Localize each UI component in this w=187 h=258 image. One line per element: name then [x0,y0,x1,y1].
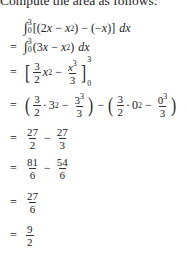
equation-line-6: = 816 − 546 [10,153,71,183]
minus: − [55,21,62,36]
right-paren: ) [171,94,176,116]
denominator: 6 [29,202,37,215]
fraction: 32 [33,93,41,118]
numerator: 03 [157,91,169,106]
numerator: 9 [26,223,34,235]
term: )] [107,21,115,36]
integral-limits: 3 0 [28,19,32,35]
denominator: 2 [33,72,41,85]
numerator: x3 [67,58,78,73]
fraction: 273 [56,126,69,151]
right-bracket: ] [81,61,86,83]
exponent: 3 [163,92,167,101]
equals-sign: = [10,161,24,176]
denominator: 6 [59,168,67,181]
fraction: 92 [26,223,34,248]
left-bracket: [ [25,61,30,83]
eval-limits: 3 0 [87,56,91,88]
denominator: 2 [29,138,37,151]
numerator: 81 [26,156,39,168]
numerator: 3 [33,60,41,72]
left-paren: ( [25,94,30,116]
denominator: 2 [26,235,34,248]
minus: − [51,40,58,55]
exponent: 2 [138,101,142,110]
denominator: 3 [69,73,77,86]
minus: − [145,98,152,113]
lower-limit: 0 [28,27,32,35]
exponent: 3 [73,59,77,68]
equals-sign: = [10,195,24,210]
numerator: 27 [56,126,69,138]
lower-limit: 0 [87,80,91,88]
equals-sign: = [10,40,24,55]
right-paren: ) [88,94,93,116]
equation-line-5: = 272 − 273 [10,123,71,153]
exponent: 2 [55,101,59,110]
numerator: 54 [56,156,69,168]
numerator: 3 [33,93,41,105]
fraction: x33 [67,58,78,86]
lower-limit: 0 [28,46,32,54]
minus: − [44,131,51,146]
equals-sign: = [10,98,24,113]
exponent: 2 [48,68,52,77]
differential: dx [119,21,130,36]
numerator: 27 [26,126,39,138]
fraction: 033 [157,91,169,119]
numerator: 33 [74,91,86,106]
denominator: 3 [159,106,167,119]
var-x: x [47,21,52,36]
minus: − [62,98,69,113]
denominator: 6 [29,168,37,181]
var-x: x [43,40,48,55]
fraction: 816 [26,156,39,181]
equals-sign: = [10,131,24,146]
equation-line-7: = 276 [10,187,41,217]
integral-limits: 3 0 [28,38,32,54]
upper-limit: 3 [87,56,91,64]
minus: − [44,161,51,176]
differential: dx [78,40,89,55]
denominator: 2 [33,105,41,118]
fraction: 276 [26,190,39,215]
fraction: 272 [26,126,39,151]
denominator: 3 [76,106,84,119]
minus: − [55,65,62,80]
term: ) − (− [74,21,102,36]
fraction: 32 [117,93,125,118]
fraction: 333 [74,91,86,119]
denominator: 3 [59,138,67,151]
denominator: 2 [117,105,125,118]
numerator: 3 [117,93,125,105]
term: ) [70,40,74,55]
fraction: 32 [33,60,41,85]
term: (3 [33,40,43,55]
equals-sign: = [10,228,24,243]
equals-sign: = [10,65,24,80]
equation-line-3: = [ 32 x2 − x33 ] 3 0 [10,55,91,89]
dot: · [126,98,130,113]
exponent: 3 [80,92,84,101]
fraction: 546 [56,156,69,181]
equation-line-8: = 92 [10,220,36,250]
intro-text: Compute the area as follows: [0,0,157,9]
minus: − [97,98,104,113]
numerator: 27 [26,190,39,202]
left-paren: ( [108,94,113,116]
dot: · [43,98,47,113]
equation-line-4: = ( 32 · 32 − 333 ) − ( 32 · 02 − 033 ) [10,88,178,122]
term: [(2 [33,21,47,36]
